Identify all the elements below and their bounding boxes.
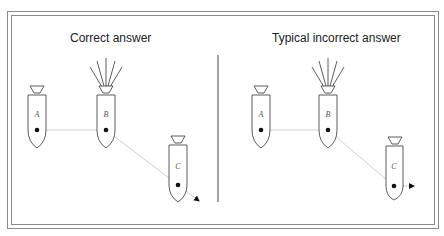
object-b: B (312, 58, 344, 148)
object-label: C (175, 162, 181, 171)
object-label: B (104, 110, 109, 119)
cone-icon (254, 86, 268, 93)
shell-body (386, 146, 403, 200)
center-dot (176, 183, 181, 188)
diagram-canvas: A B C (0, 0, 444, 236)
object-c: C (169, 136, 187, 202)
cone-icon (171, 136, 185, 143)
center-dot (392, 184, 397, 189)
center-dot (104, 128, 109, 133)
object-b: B (90, 58, 122, 148)
object-c: C (386, 137, 403, 200)
center-dot (259, 128, 264, 133)
cone-icon (30, 86, 44, 93)
object-a: A (28, 86, 46, 148)
center-dot (326, 128, 331, 133)
shell-body (252, 95, 270, 148)
path-b-to-c (328, 130, 394, 186)
object-a: A (252, 86, 270, 148)
object-label: B (326, 110, 331, 119)
shell-body (169, 145, 187, 202)
flare-burst-icon (90, 58, 122, 87)
panel-correct: A B C (28, 58, 199, 202)
flare-burst-icon (312, 58, 344, 87)
object-label: A (258, 110, 264, 119)
object-label: C (391, 162, 397, 171)
cone-icon (321, 86, 335, 93)
shell-body (319, 95, 337, 148)
shell-body (97, 95, 115, 148)
panel-incorrect: A B C (252, 58, 414, 200)
cone-icon (388, 137, 402, 144)
center-dot (35, 128, 40, 133)
object-label: A (34, 110, 40, 119)
shell-body (28, 95, 46, 148)
cone-icon (99, 86, 113, 93)
